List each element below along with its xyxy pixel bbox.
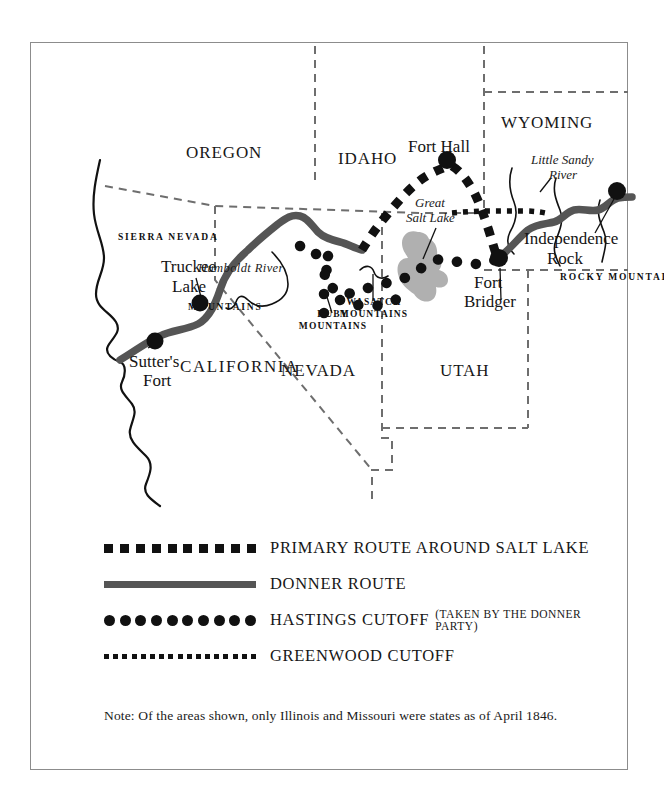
- water-label-little-sandy-river-line2: River: [549, 168, 577, 182]
- place-label-fort-bridger-line2: Bridger: [464, 293, 516, 311]
- place-label-independence-rock-line1: Independence: [524, 230, 618, 248]
- state-label-oregon: OREGON: [186, 144, 262, 162]
- map-legend: PRIMARY ROUTE AROUND SALT LAKE DONNER RO…: [104, 533, 624, 677]
- legend-row-hastings-cutoff: HASTINGS CUTOFF (TAKEN BY THE DONNER PAR…: [104, 605, 624, 635]
- legend-swatch-hastings-cutoff: [104, 613, 256, 627]
- legend-label-hastings-cutoff: HASTINGS CUTOFF: [270, 610, 429, 630]
- range-label-rocky-mountains: ROCKY MOUNTAINS: [560, 280, 630, 414]
- water-label-great-salt-lake-line1: Great: [415, 196, 445, 210]
- legend-row-greenwood-cutoff: GREENWOOD CUTOFF: [104, 641, 624, 671]
- place-label-sutters-fort-line1: Sutter's: [129, 353, 179, 371]
- legend-row-donner-route: DONNER ROUTE: [104, 569, 624, 599]
- state-label-wyoming: WYOMING: [501, 114, 593, 132]
- legend-swatch-greenwood-cutoff: [104, 649, 256, 663]
- water-label-little-sandy-river-line1: Little Sandy: [531, 153, 593, 167]
- place-label-fort-hall: Fort Hall: [408, 138, 470, 156]
- legend-label-donner-route: DONNER ROUTE: [270, 574, 406, 594]
- place-label-fort-bridger-line1: Fort: [474, 274, 502, 292]
- legend-label-primary-route: PRIMARY ROUTE AROUND SALT LAKE: [270, 538, 589, 558]
- range-label-ruby-line2: MOUNTAINS: [295, 321, 371, 332]
- range-label-wasatch-line2: MOUNTAINS: [336, 309, 412, 320]
- place-label-sutters-fort-line2: Fort: [143, 372, 171, 390]
- legend-swatch-donner-route: [104, 577, 256, 591]
- range-label-sierra-mountains-text: MOUNTAINS: [188, 302, 263, 312]
- legend-label-greenwood-cutoff: GREENWOOD CUTOFF: [270, 646, 455, 666]
- map-footnote: Note: Of the areas shown, only Illinois …: [104, 708, 557, 724]
- range-label-sierra-nevada-text: SIERRA NEVADA: [118, 232, 219, 242]
- range-label-wasatch-line1: WASATCH: [343, 297, 405, 308]
- state-label-utah: UTAH: [440, 362, 489, 380]
- water-label-great-salt-lake-line2: Salt Lake: [406, 211, 455, 225]
- historical-map-page: OREGON IDAHO WYOMING NEVADA UTAH CALIFOR…: [0, 0, 664, 794]
- legend-swatch-primary-route: [104, 541, 256, 555]
- legend-sublabel-hastings-cutoff: (TAKEN BY THE DONNER PARTY): [435, 608, 624, 632]
- place-label-independence-rock-line2: Rock: [547, 250, 583, 268]
- state-label-idaho: IDAHO: [338, 150, 397, 168]
- range-label-rocky-mountains-text: ROCKY MOUNTAINS: [560, 272, 664, 282]
- legend-row-primary-route: PRIMARY ROUTE AROUND SALT LAKE: [104, 533, 624, 563]
- range-label-sierra-mountains: MOUNTAINS: [188, 310, 278, 404]
